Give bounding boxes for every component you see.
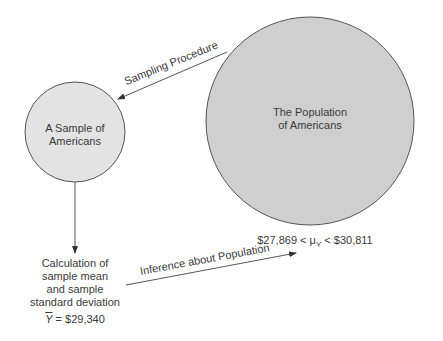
- sample-mean-value: Y = $29,340: [25, 313, 125, 326]
- ci-lower: $27,869 <: [257, 234, 309, 246]
- sample-mean-amount: = $29,340: [53, 313, 105, 325]
- calculation-label: Calculation of sample mean and sample st…: [10, 257, 140, 309]
- confidence-interval: $27,869 < μY < $30,811: [245, 234, 385, 251]
- calculation-line1: Calculation of: [10, 257, 140, 270]
- population-label: The Population of Americans: [260, 106, 360, 132]
- calculation-line2: sample mean: [10, 270, 140, 283]
- sample-label-line2: Americans: [30, 135, 120, 148]
- sample-label-line1: A Sample of: [30, 122, 120, 135]
- calculation-line4: standard deviation: [10, 296, 140, 309]
- ci-upper: < $30,811: [321, 234, 372, 246]
- sample-label: A Sample of Americans: [30, 122, 120, 148]
- y-bar-symbol: Y: [45, 313, 52, 325]
- population-label-line1: The Population: [260, 106, 360, 119]
- population-label-line2: of Americans: [260, 119, 360, 132]
- calculation-line3: and sample: [10, 283, 140, 296]
